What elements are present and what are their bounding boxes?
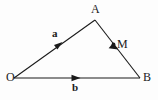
triangle-vector-drawing <box>0 0 158 100</box>
vertex-label-A: A <box>91 3 100 15</box>
vector-diagram-figure: O A B M a b <box>0 0 158 100</box>
vertex-label-B: B <box>143 71 151 83</box>
point-label-M: M <box>117 38 128 50</box>
vector-label-b: b <box>72 82 78 93</box>
vertex-label-O: O <box>6 71 15 83</box>
point-marker-M <box>112 43 116 47</box>
vector-label-a: a <box>52 28 58 39</box>
